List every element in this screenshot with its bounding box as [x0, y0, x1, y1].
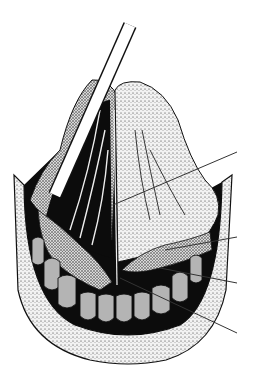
anatomical-illustration: [0, 0, 256, 373]
